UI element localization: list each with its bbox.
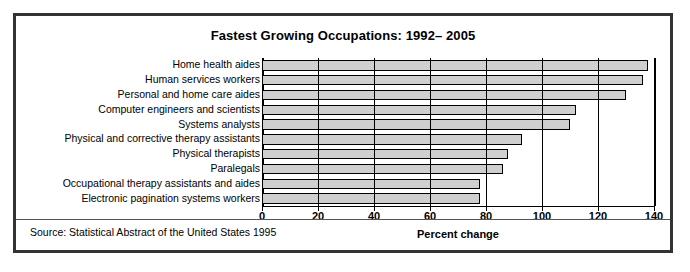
gridline — [654, 58, 656, 206]
category-axis-labels: Home health aidesHuman services workersP… — [22, 58, 260, 206]
bar — [262, 179, 480, 190]
category-label: Home health aides — [172, 59, 260, 70]
gridline — [542, 58, 543, 206]
category-label: Physical and corrective therapy assistan… — [64, 133, 260, 144]
gridline — [430, 58, 431, 206]
bar — [262, 149, 508, 160]
bar-row — [262, 149, 654, 160]
gridline — [318, 58, 319, 206]
category-label: Human services workers — [145, 74, 260, 85]
gridline — [598, 58, 599, 206]
bar — [262, 90, 626, 101]
chart-figure: Fastest Growing Occupations: 1992– 2005 … — [13, 13, 673, 253]
bar — [262, 164, 503, 175]
bar-row — [262, 90, 654, 101]
bar-row — [262, 164, 654, 175]
bar-row — [262, 105, 654, 116]
category-label: Physical therapists — [172, 148, 260, 159]
bar-row — [262, 134, 654, 145]
plot-area: Percent change 020406080100120140 — [262, 58, 654, 206]
x-axis-line — [262, 206, 654, 208]
bar-row — [262, 75, 654, 86]
category-label: Occupational therapy assistants and aide… — [63, 178, 260, 189]
x-tick-label: 20 — [312, 210, 324, 222]
bar-row — [262, 179, 654, 190]
x-tick-label: 80 — [480, 210, 492, 222]
source-divider — [16, 219, 670, 220]
bar-row — [262, 119, 654, 130]
x-axis-title: Percent change — [262, 228, 654, 240]
bar — [262, 119, 570, 130]
category-label: Computer engineers and scientists — [98, 104, 260, 115]
x-tick-label: 60 — [424, 210, 436, 222]
x-tick-label: 140 — [645, 210, 663, 222]
chart-title: Fastest Growing Occupations: 1992– 2005 — [16, 28, 670, 43]
gridline — [486, 58, 487, 206]
x-tick-label: 100 — [533, 210, 551, 222]
bar — [262, 105, 576, 116]
x-tick-label: 0 — [259, 210, 265, 222]
bar — [262, 134, 522, 145]
bar — [262, 60, 648, 71]
x-tick-label: 40 — [368, 210, 380, 222]
gridline — [374, 58, 375, 206]
category-label: Systems analysts — [178, 119, 260, 130]
bar-row — [262, 193, 654, 204]
bar-row — [262, 60, 654, 71]
bar — [262, 75, 643, 86]
bar — [262, 193, 480, 204]
x-tick-label: 120 — [589, 210, 607, 222]
category-label: Electronic pagination systems workers — [81, 193, 260, 204]
category-label: Personal and home care aides — [118, 89, 260, 100]
source-note: Source: Statistical Abstract of the Unit… — [30, 226, 276, 238]
category-label: Paralegals — [210, 163, 260, 174]
